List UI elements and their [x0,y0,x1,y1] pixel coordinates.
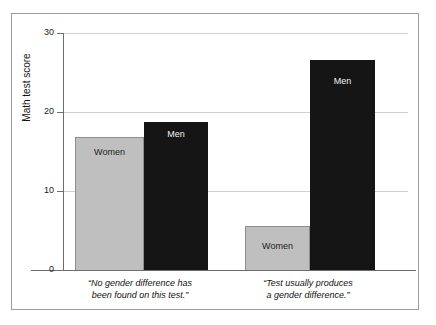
y-tick-label-0: 0 [49,265,54,274]
y-tick-mark-30 [57,33,63,34]
bar-group2-women[interactable]: Women [245,226,310,270]
y-tick-label-20: 20 [44,107,54,116]
x-axis-line [31,270,416,271]
x-category-label-1-line2: been found on this test.” [60,289,220,301]
gridline-30 [64,33,408,34]
bar-label-group1-women: Women [76,147,143,157]
x-category-label-2-line2: a gender difference.” [228,289,388,301]
figure-container: Math test score 30 20 10 0 Women Men Wom… [0,0,436,325]
bar-label-group2-women: Women [246,241,309,251]
bar-label-group2-men: Men [310,76,375,86]
y-axis-title: Math test score [21,18,32,158]
x-category-label-2-line1: “Test usually produces [228,277,388,289]
y-tick-label-30: 30 [44,28,54,37]
bar-group1-women[interactable]: Women [75,137,144,270]
y-tick-label-20-wrap: 20 [26,107,54,116]
y-tick-label-10-wrap: 10 [26,186,54,195]
bar-group2-men[interactable]: Men [310,60,375,270]
bar-label-group1-men: Men [144,129,208,139]
x-category-label-1-line1: “No gender difference has [60,277,220,289]
y-tick-mark-20 [57,112,63,113]
y-tick-mark-0 [57,270,63,271]
x-category-label-1: “No gender difference has been found on … [60,277,220,301]
bar-group1-men[interactable]: Men [144,122,208,270]
x-category-label-2: “Test usually produces a gender differen… [228,277,388,301]
y-tick-label-0-wrap: 0 [26,265,54,274]
y-tick-label-30-wrap: 30 [26,28,54,37]
y-tick-mark-10 [57,191,63,192]
plot-area: Women Men Women Men [64,33,408,270]
y-tick-label-10: 10 [44,186,54,195]
